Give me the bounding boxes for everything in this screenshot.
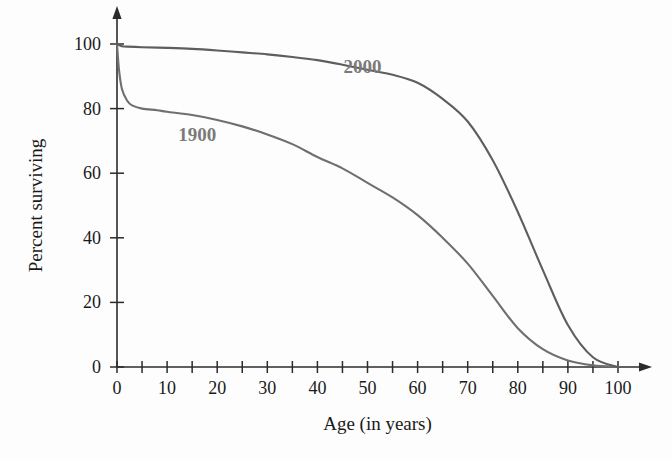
- x-tick-label: 80: [509, 378, 527, 398]
- series-annotations-group: 19002000: [178, 56, 381, 145]
- series-line-2000: [117, 44, 618, 367]
- x-tick-label: 20: [208, 378, 226, 398]
- y-tick-label: 80: [83, 99, 101, 119]
- x-tick-label: 70: [459, 378, 477, 398]
- x-tick-label: 100: [605, 378, 632, 398]
- x-tick-label: 90: [559, 378, 577, 398]
- y-axis-arrow-icon: [112, 6, 121, 19]
- data-series-group: [117, 44, 618, 367]
- series-label-1900: 1900: [178, 124, 216, 145]
- y-tick-label: 20: [83, 292, 101, 312]
- x-tick-label: 40: [308, 378, 326, 398]
- x-tick-label: 60: [409, 378, 427, 398]
- x-tick-label: 30: [258, 378, 276, 398]
- chart-svg: 0102030405060708090100020406080100 19002…: [0, 0, 672, 459]
- x-tick-label: 50: [359, 378, 377, 398]
- axes-group: [112, 6, 652, 372]
- y-tick-label: 60: [83, 163, 101, 183]
- y-tick-label: 100: [74, 34, 101, 54]
- y-axis-title: Percent surviving: [25, 138, 46, 272]
- y-tick-label: 0: [92, 357, 101, 377]
- tick-labels-group: 0102030405060708090100020406080100: [74, 34, 632, 398]
- series-line-1900: [117, 44, 618, 367]
- x-tick-label: 10: [158, 378, 176, 398]
- y-tick-label: 40: [83, 228, 101, 248]
- survival-curves-chart: 0102030405060708090100020406080100 19002…: [0, 0, 672, 459]
- series-label-2000: 2000: [343, 56, 381, 77]
- x-tick-label: 0: [113, 378, 122, 398]
- ticks-group: [110, 44, 618, 373]
- x-axis-arrow-icon: [639, 362, 652, 371]
- x-axis-title: Age (in years): [323, 413, 432, 435]
